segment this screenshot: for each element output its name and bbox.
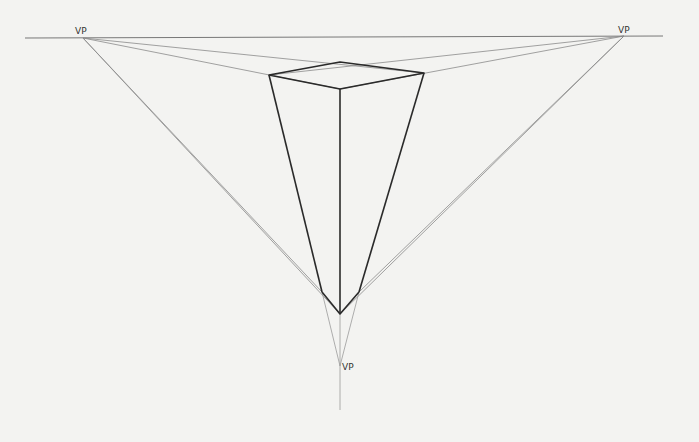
vp-left-label: VP <box>75 26 87 36</box>
horizon-line <box>25 36 663 38</box>
cube-top-face <box>269 62 424 89</box>
vp-right-label: VP <box>618 25 630 35</box>
guide-lines-left-vp <box>83 38 424 314</box>
cube-right-edge <box>359 73 424 292</box>
cube-left-edge <box>269 75 322 292</box>
perspective-drawing: VP VP VP <box>0 0 699 442</box>
cube <box>269 62 424 314</box>
guide-lines-right-vp <box>269 36 624 314</box>
vp-bottom-label: VP <box>342 362 354 372</box>
drawing-canvas: VP VP VP <box>0 0 699 442</box>
